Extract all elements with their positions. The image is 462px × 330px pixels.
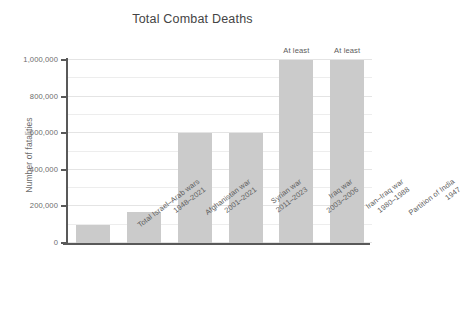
- gridline-major: [67, 169, 372, 170]
- y-axis-tick-label: 1,000,000: [0, 55, 58, 64]
- y-axis-tick-label: 400,000: [0, 165, 58, 174]
- y-axis-tick: [61, 205, 67, 207]
- y-axis-tick-label: 600,000: [0, 128, 58, 137]
- gridline-minor: [67, 77, 372, 78]
- y-axis-tick: [61, 96, 67, 98]
- gridline-minor: [67, 114, 372, 115]
- gridline-major: [67, 96, 372, 97]
- y-axis-tick-label: 200,000: [0, 201, 58, 210]
- bar: [76, 225, 110, 243]
- gridline-minor: [67, 187, 372, 188]
- y-axis-tick: [61, 59, 67, 61]
- y-axis-tick: [61, 169, 67, 171]
- gridline-minor: [67, 224, 372, 225]
- y-axis-tick: [61, 242, 67, 244]
- bar-annotation: At least: [271, 46, 321, 55]
- y-axis-tick-label: 800,000: [0, 92, 58, 101]
- y-axis-line: [66, 58, 68, 245]
- y-axis-tick-label: 0: [0, 238, 58, 247]
- gridline-minor: [67, 151, 372, 152]
- gridline-major: [67, 132, 372, 133]
- bar-annotation: At least: [322, 46, 372, 55]
- chart-title: Total Combat Deaths: [0, 12, 385, 26]
- y-axis-tick: [61, 132, 67, 134]
- gridline-major: [67, 59, 372, 60]
